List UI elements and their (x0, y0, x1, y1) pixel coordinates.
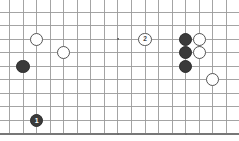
black-stone[interactable] (179, 60, 192, 73)
black-stone[interactable] (179, 46, 192, 59)
black-stone[interactable] (16, 60, 29, 73)
stone-move-number: 1 (35, 117, 39, 124)
stone-move-number: 2 (143, 36, 147, 43)
white-stone[interactable] (193, 46, 206, 59)
white-stone[interactable]: 2 (138, 33, 151, 46)
white-stone[interactable] (206, 73, 219, 86)
stone-layer: 21 (0, 0, 239, 141)
go-board-diagram: 21 (0, 0, 239, 141)
white-stone[interactable] (30, 33, 43, 46)
white-stone[interactable] (193, 33, 206, 46)
black-stone[interactable] (179, 33, 192, 46)
black-stone[interactable]: 1 (30, 114, 43, 127)
white-stone[interactable] (57, 46, 70, 59)
